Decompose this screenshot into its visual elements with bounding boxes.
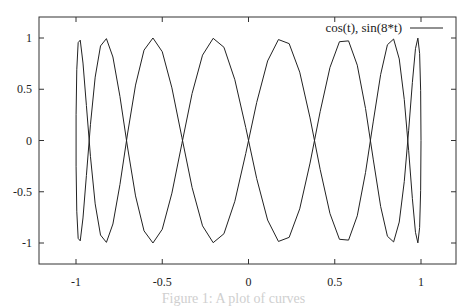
legend: cos(t), sin(8*t) bbox=[325, 20, 443, 35]
figure-caption: Figure 1: A plot of curves bbox=[0, 291, 467, 307]
y-tick-label: -0.5 bbox=[13, 185, 32, 199]
x-tick-label: 0.5 bbox=[327, 275, 342, 289]
y-tick-label: 1 bbox=[26, 31, 32, 45]
legend-label: cos(t), sin(8*t) bbox=[325, 20, 402, 35]
plot-border bbox=[39, 17, 456, 264]
y-tick-label: -1 bbox=[22, 236, 32, 250]
y-tick-label: 0.5 bbox=[17, 82, 32, 96]
plot-frame bbox=[39, 17, 456, 264]
x-tick-label: 0 bbox=[246, 275, 252, 289]
x-tick-label: -1 bbox=[71, 275, 81, 289]
x-tick-label: 1 bbox=[418, 275, 424, 289]
axis-ticks: -1-0.500.5110.50-0.5-1 bbox=[13, 17, 456, 289]
series-line bbox=[76, 38, 421, 243]
curve-series bbox=[76, 38, 421, 243]
y-tick-label: 0 bbox=[26, 134, 32, 148]
x-tick-label: -0.5 bbox=[153, 275, 172, 289]
